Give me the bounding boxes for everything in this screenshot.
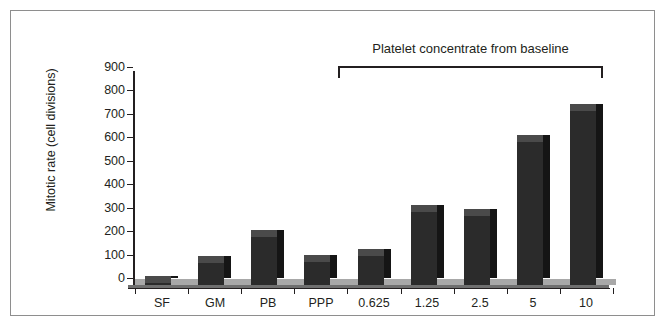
y-axis-tick [127, 90, 133, 91]
bar [570, 104, 603, 285]
bar-front-face [145, 283, 171, 285]
bar-side-face [543, 135, 550, 278]
bar-side-face [596, 104, 603, 278]
bar [145, 276, 178, 285]
bar-front-face [464, 216, 490, 285]
bar-top-face [304, 255, 330, 262]
y-axis-tick [127, 161, 133, 162]
y-axis-tick [127, 208, 133, 209]
x-axis-tick-label: 10 [556, 297, 616, 310]
y-axis-tick-label-wrap: 0 [89, 272, 125, 284]
bar-front-face [570, 111, 596, 285]
bar-top-face [251, 230, 277, 237]
bar-front-face [358, 256, 384, 285]
x-axis-tick [613, 288, 614, 294]
x-axis-tick [135, 288, 136, 294]
group-bracket [338, 66, 603, 78]
x-axis-tick-label: PPP [291, 297, 351, 310]
bar-side-face [490, 209, 497, 278]
y-axis-tick [127, 278, 133, 279]
bar-side-face [171, 276, 178, 278]
y-axis-tick-label: 100 [93, 249, 125, 262]
figure-container: Platelet concentrate from baseline Mitot… [0, 0, 667, 328]
x-axis-tick-label: 1.25 [397, 297, 457, 310]
x-axis-tick [454, 288, 455, 294]
x-axis-tick-label: GM [185, 297, 245, 310]
x-axis-tick [241, 288, 242, 294]
x-axis-tick-label: 0.625 [344, 297, 404, 310]
y-axis-tick-label-wrap: 900 [89, 61, 125, 73]
x-axis-tick [560, 288, 561, 294]
y-axis-tick [127, 67, 133, 68]
x-axis-tick-label: PB [238, 297, 298, 310]
bar-front-face [517, 142, 543, 285]
bar-top-face [198, 256, 224, 263]
bar-front-face [198, 263, 224, 285]
x-axis-tick [188, 288, 189, 294]
y-axis-tick-label: 900 [93, 61, 125, 74]
bar [358, 249, 391, 285]
y-axis-tick-label-wrap: 600 [89, 131, 125, 143]
x-axis-tick [347, 288, 348, 294]
y-axis-tick-label: 700 [93, 108, 125, 121]
bar-side-face [277, 230, 284, 278]
y-axis-tick [127, 255, 133, 256]
x-axis-tick-label: SF [132, 297, 192, 310]
bar-top-face [145, 276, 171, 283]
y-axis-tick-label-wrap: 300 [89, 202, 125, 214]
y-axis-tick-label: 200 [93, 225, 125, 238]
x-axis-line [128, 288, 610, 289]
figure-frame: Platelet concentrate from baseline Mitot… [10, 10, 655, 316]
group-bracket-caption: Platelet concentrate from baseline [338, 41, 603, 56]
y-axis-tick-label: 500 [93, 155, 125, 168]
y-axis-tick-label: 0 [93, 272, 125, 285]
bar-side-face [330, 255, 337, 278]
y-axis-line [133, 71, 135, 286]
bar-top-face [358, 249, 384, 256]
x-axis-tick-label: 2.5 [450, 297, 510, 310]
bar [198, 256, 231, 285]
y-axis-tick-label-wrap: 700 [89, 108, 125, 120]
y-axis-tick-label-wrap: 800 [89, 84, 125, 96]
bar-front-face [251, 237, 277, 285]
y-axis-tick-label: 600 [93, 131, 125, 144]
bar [251, 230, 284, 285]
y-axis-tick-label-wrap: 400 [89, 178, 125, 190]
bar-top-face [570, 104, 596, 111]
y-axis-title: Mitotic rate (cell divisions) [44, 45, 58, 235]
x-axis-tick [294, 288, 295, 294]
y-axis-tick-label-wrap: 100 [89, 249, 125, 261]
bar [411, 205, 444, 285]
bar-top-face [464, 209, 490, 216]
x-axis-tick-label: 5 [503, 297, 563, 310]
y-axis-tick-label: 400 [93, 178, 125, 191]
bar-side-face [437, 205, 444, 278]
bar [464, 209, 497, 285]
y-axis-tick-label: 800 [93, 84, 125, 97]
y-axis-tick-label-wrap: 200 [89, 225, 125, 237]
y-axis-tick-label-wrap: 500 [89, 155, 125, 167]
bar-front-face [411, 212, 437, 285]
bar-front-face [304, 262, 330, 285]
y-axis-tick [127, 231, 133, 232]
bar-side-face [384, 249, 391, 278]
bar-top-face [517, 135, 543, 142]
y-axis-tick-label: 300 [93, 202, 125, 215]
y-axis-tick [127, 137, 133, 138]
y-axis-tick [127, 184, 133, 185]
y-axis-tick [127, 114, 133, 115]
bar [517, 135, 550, 285]
bar [304, 255, 337, 285]
x-axis-tick [401, 288, 402, 294]
x-axis-tick [507, 288, 508, 294]
bar-top-face [411, 205, 437, 212]
bar-side-face [224, 256, 231, 278]
